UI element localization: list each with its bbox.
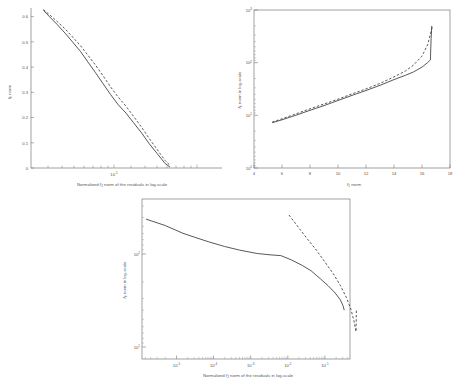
series-solid-curve	[272, 26, 432, 123]
x-tick-label: 12	[364, 171, 369, 176]
x-axis-title: Normalized ℓ2 norm of the residuals in l…	[203, 373, 294, 379]
x-ticks-top-right	[254, 165, 450, 169]
x-tick-label: 10-4	[210, 362, 218, 368]
series-dashed-curve	[44, 10, 171, 166]
y-axis-title: ℓ0 norm	[7, 85, 13, 100]
axes-top-left	[31, 8, 222, 168]
y-axis-title: ℓ0 norm in log-scale	[122, 261, 128, 300]
panel-top-right: 103 102 101 100 4 6 8 10 12 14 16 18	[236, 0, 466, 192]
x-axis-title: Normalized ℓ2 norm of the residuals in l…	[77, 182, 168, 188]
y-tick-label: 0.2	[22, 115, 28, 120]
y-tick-label: 102	[246, 60, 253, 66]
y-tick-label: 100	[246, 165, 253, 171]
plot-top-left-svg: 0 0.1 0.2 0.3 0.4 0.5 0.6 1	[0, 0, 230, 192]
y-tick-label: 0	[26, 166, 29, 171]
x-ticks-top-left	[48, 165, 197, 169]
y-tick-label: 102	[134, 251, 141, 257]
y-tick-label: 0.5	[22, 40, 28, 45]
y-tick-label: 101	[246, 112, 253, 118]
x-tick-label: 6	[281, 171, 284, 176]
y-tick-labels-top-left: 0 0.1 0.2 0.3 0.4 0.5 0.6	[22, 14, 28, 170]
panel-bottom: 102 101	[108, 192, 378, 383]
y-tick-label: 0.1	[22, 141, 28, 146]
x-tick-label: 10-1	[321, 362, 329, 368]
y-axis-title: ℓ0 norm in log-scale	[237, 71, 243, 110]
x-tick-label: 10-2	[284, 362, 292, 368]
x-tick-label: 8	[309, 171, 312, 176]
x-tick-label: 10	[336, 171, 341, 176]
x-tick-label: 16	[420, 171, 425, 176]
y-tick-label: 103	[246, 7, 253, 13]
x-tick-label: 10-3	[247, 362, 255, 368]
y-tick-label: 101	[134, 344, 141, 350]
x-tick-label: 10-5	[173, 362, 181, 368]
axes-box-top-right	[254, 10, 450, 168]
x-tick-label: 18	[448, 171, 453, 176]
x-tick-labels-top-right: 4 6 8 10 12 14 16 18	[253, 171, 453, 176]
axes-box-bottom	[142, 199, 350, 359]
y-ticks-top-right	[254, 10, 258, 168]
series-solid-curve	[146, 219, 344, 310]
plot-bottom-svg: 102 101	[108, 192, 378, 383]
series-solid-curve	[44, 10, 171, 167]
y-tick-labels-top-right: 103 102 101 100	[246, 7, 253, 171]
y-tick-label: 0.6	[22, 14, 28, 19]
x-tick-label: 4	[253, 171, 256, 176]
plot-top-right-svg: 103 102 101 100 4 6 8 10 12 14 16 18	[236, 0, 466, 192]
y-tick-label: 0.4	[22, 65, 28, 70]
x-axis-title: ℓ1 norm	[346, 182, 361, 188]
y-tick-labels-bottom: 102 101	[134, 251, 141, 350]
x-tick-labels-bottom: 10-5 10-4 10-3 10-2 10-1	[173, 362, 329, 368]
panel-top-left: 0 0.1 0.2 0.3 0.4 0.5 0.6 1	[0, 0, 230, 192]
x-tick-label: 14	[392, 171, 397, 176]
x-tick-label-exponent: 10-1	[110, 171, 118, 177]
y-ticks-top-left	[31, 17, 34, 168]
y-tick-label: 0.3	[22, 90, 28, 95]
series-dashed-curve	[289, 215, 356, 332]
